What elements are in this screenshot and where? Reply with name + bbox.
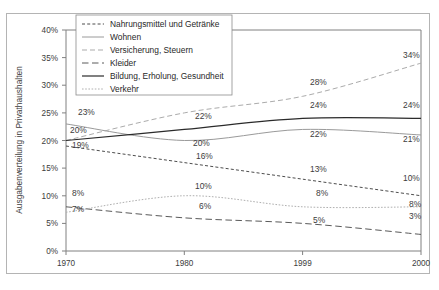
y-axis-title: Ausgabenverteilung in Privathaushalten	[14, 66, 24, 214]
series-line-kleider	[66, 207, 421, 235]
legend-label-nahrungsmittel: Nahrungsmittel und Getränke	[110, 19, 220, 29]
y-tick-label: 20%	[42, 137, 58, 146]
y-tick-label: 30%	[42, 81, 58, 90]
y-tick-label: 40%	[42, 26, 58, 35]
y-tick-label: 0%	[46, 247, 58, 256]
x-tick-label: 1999	[293, 259, 312, 268]
data-point-label: 3%	[409, 211, 422, 221]
legend-label-wohnen: Wohnen	[110, 32, 141, 42]
data-point-label: 24%	[403, 100, 420, 110]
data-point-label: 5%	[313, 215, 326, 225]
data-point-label: 34%	[403, 50, 420, 60]
legend-label-verkehr: Verkehr	[110, 84, 139, 94]
x-tick-label: 1970	[57, 259, 76, 268]
data-point-label: 8%	[72, 188, 85, 198]
data-point-label: 19%	[72, 140, 89, 150]
data-point-label: 13%	[310, 164, 327, 174]
chart-container: 40% 35% 30% 25% 20% 15% 10% 5% 0% 1970 1…	[0, 0, 439, 290]
data-point-label: 20%	[193, 138, 210, 148]
data-point-label: 10%	[403, 173, 420, 183]
legend-label-bildung: Bildung, Erholung, Gesundheit	[110, 71, 224, 81]
data-point-label: 28%	[310, 77, 327, 87]
y-tick-label: 5%	[46, 219, 58, 228]
data-point-label: 22%	[195, 111, 212, 121]
y-tick-label: 10%	[42, 192, 58, 201]
series-line-bildung-erholung-gesundheit	[66, 118, 421, 141]
data-point-label: 20%	[70, 125, 87, 135]
y-tick-label: 15%	[42, 164, 58, 173]
data-point-label: 6%	[199, 201, 212, 211]
legend-label-versicherung: Versicherung, Steuern	[110, 45, 193, 55]
line-chart: 40% 35% 30% 25% 20% 15% 10% 5% 0% 1970 1…	[0, 0, 439, 290]
data-point-label: 8%	[316, 188, 329, 198]
data-point-label: 21%	[403, 134, 420, 144]
data-point-label: 10%	[195, 181, 212, 191]
legend-label-kleider: Kleider	[110, 58, 136, 68]
y-tick-label: 35%	[42, 54, 58, 63]
x-tick-group: 1970 1980 1999 2000	[57, 251, 431, 268]
y-tick-group: 40% 35% 30% 25% 20% 15% 10% 5% 0%	[42, 26, 66, 256]
data-point-label: 24%	[310, 100, 327, 110]
data-point-label: 23%	[78, 107, 95, 117]
data-point-label: 7%	[72, 204, 85, 214]
data-point-label: 8%	[409, 199, 422, 209]
series-line-nahrungsmittel-und-getr-nke	[66, 146, 421, 196]
x-tick-label: 2000	[412, 259, 431, 268]
data-point-label: 22%	[310, 129, 327, 139]
y-tick-label: 25%	[42, 109, 58, 118]
series-line-wohnen	[66, 124, 421, 141]
series-line-verkehr	[66, 196, 421, 213]
x-tick-label: 1980	[175, 259, 194, 268]
chart-legend: Nahrungsmittel und Getränke Wohnen Versi…	[76, 15, 232, 95]
data-point-label: 16%	[196, 151, 213, 161]
